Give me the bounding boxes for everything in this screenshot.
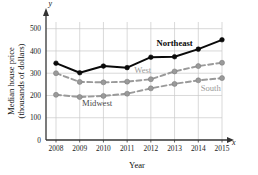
- series-annotation-midwest: Midwest: [82, 98, 113, 108]
- data-point-northeast-2011: [125, 65, 130, 70]
- data-point-northeast-2010: [101, 64, 106, 69]
- y-axis-title-line1: Median house price: [6, 47, 16, 115]
- x-tick-label: 2015: [215, 144, 230, 153]
- data-point-west-2015: [220, 60, 225, 65]
- x-tick-label: 2012: [143, 144, 158, 153]
- y-axis-title-line2: (thousands of dollars): [16, 43, 26, 118]
- data-point-northeast-2015: [220, 38, 225, 43]
- data-point-northeast-2009: [77, 70, 82, 75]
- x-tick-label: 2009: [72, 144, 87, 153]
- data-point-south-2012: [148, 86, 153, 91]
- data-point-south-2015: [220, 76, 225, 81]
- data-point-northeast-2013: [172, 54, 177, 59]
- median-house-price-line-chart: 0100200300400500200820092010201120122013…: [0, 0, 258, 175]
- data-point-south-2011: [125, 91, 130, 96]
- data-point-northeast-2012: [149, 55, 154, 60]
- data-point-northeast-2008: [54, 61, 59, 66]
- y-tick-label: 400: [30, 47, 41, 56]
- chart-labels: 0100200300400500200820092010201120122013…: [6, 0, 236, 170]
- data-point-west-2010: [101, 80, 106, 85]
- data-point-west-2011: [125, 79, 130, 84]
- data-point-south-2008: [54, 92, 59, 97]
- data-point-west-2009: [77, 79, 82, 84]
- x-tick-label: 2013: [167, 144, 182, 153]
- y-tick-label: 0: [37, 136, 41, 145]
- x-axis-variable: x: [231, 138, 236, 147]
- y-axis-variable: y: [48, 0, 53, 8]
- x-axis-title: Year: [129, 160, 145, 170]
- y-tick-label: 500: [30, 24, 41, 33]
- data-point-south-2013: [172, 81, 177, 86]
- axes: [43, 8, 234, 143]
- y-tick-label: 200: [30, 91, 41, 100]
- y-tick-label: 100: [30, 113, 41, 122]
- series-annotation-west: West: [134, 65, 152, 75]
- x-tick-label: 2010: [96, 144, 111, 153]
- data-point-west-2014: [196, 64, 201, 69]
- x-tick-label: 2014: [191, 144, 206, 153]
- series-annotation-northeast: Northeast: [156, 38, 192, 48]
- data-point-west-2013: [172, 69, 177, 74]
- x-tick-label: 2011: [120, 144, 135, 153]
- series-annotation-south: South: [201, 83, 222, 93]
- x-tick-label: 2008: [49, 144, 64, 153]
- data-point-west-2012: [148, 77, 153, 82]
- chart-container: 0100200300400500200820092010201120122013…: [0, 0, 258, 175]
- data-point-west-2008: [54, 71, 59, 76]
- y-tick-label: 300: [30, 69, 41, 78]
- data-point-northeast-2014: [196, 47, 201, 52]
